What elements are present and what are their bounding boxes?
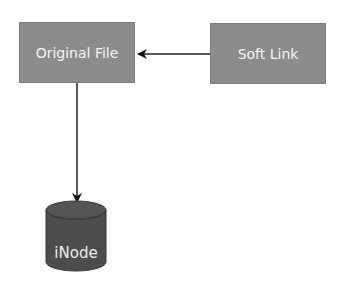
soft-link-label: Soft Link [238,46,299,62]
original-file-node: Original File [19,22,135,83]
inode-label: iNode [46,244,106,262]
original-file-label: Original File [36,45,119,61]
soft-link-node: Soft Link [210,23,326,84]
